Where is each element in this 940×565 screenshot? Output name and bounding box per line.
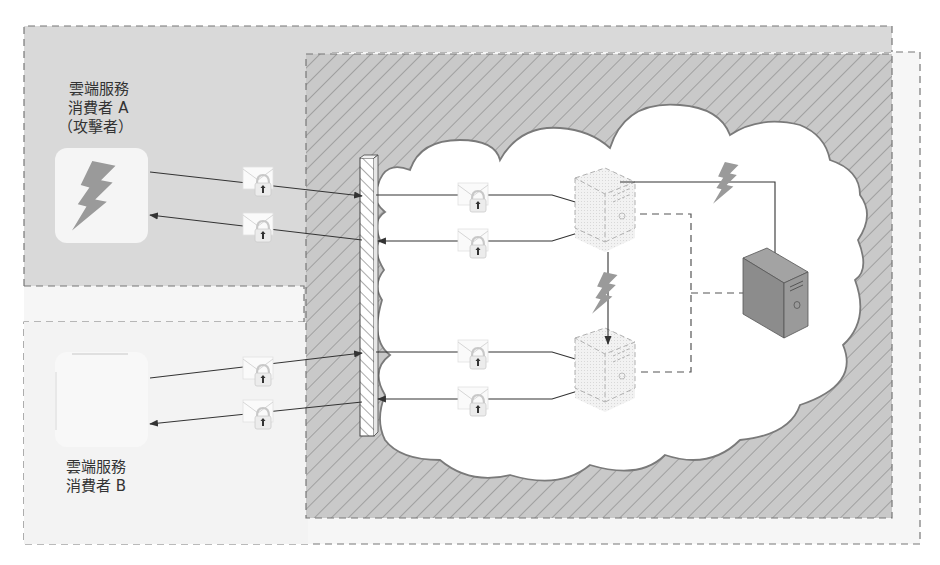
consumer-a-label: 雲端服務 消費者 A （攻擊者） xyxy=(64,80,133,137)
consumer-a-label-line3: （攻擊者） xyxy=(58,118,133,137)
cloud-attack-diagram: 雲端服務 消費者 A （攻擊者） 雲端服務 消費者 B xyxy=(0,0,940,565)
consumer-a-label-line1: 雲端服務 xyxy=(64,80,133,99)
consumer-a-icon xyxy=(55,148,148,243)
consumer-b-label-line1: 雲端服務 xyxy=(66,458,126,477)
virtual-server-bottom-icon xyxy=(575,328,635,412)
consumer-b-icon xyxy=(55,352,148,447)
virtual-server-top-icon xyxy=(575,168,635,252)
consumer-a-label-line2: 消費者 A xyxy=(64,99,133,118)
consumer-b-label: 雲端服務 消費者 B xyxy=(66,458,126,496)
firewall-icon xyxy=(360,155,378,436)
consumer-b-label-line2: 消費者 B xyxy=(66,477,126,496)
